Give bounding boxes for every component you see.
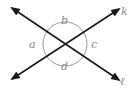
intersecting-lines-diagram: k ℓ a b c d xyxy=(0,0,134,91)
line-k-label: k xyxy=(121,5,128,18)
angle-c-label: c xyxy=(91,38,97,51)
angle-d-label: d xyxy=(61,60,68,73)
angle-b-label: b xyxy=(61,14,68,27)
line-l-label: ℓ xyxy=(120,75,125,88)
angle-a-label: a xyxy=(29,38,36,51)
